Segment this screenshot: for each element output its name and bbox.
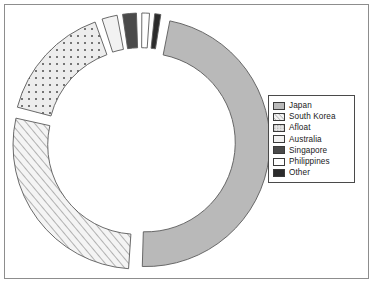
donut-slice-singapore[interactable]: [123, 13, 138, 49]
donut-slices: [13, 13, 270, 269]
legend-item-australia[interactable]: Australia: [273, 134, 350, 145]
dotted-swatch-icon: [273, 124, 285, 132]
legend-item-label: Afloat: [289, 123, 311, 132]
donut-slice-other[interactable]: [151, 14, 161, 49]
legend-item-label: Australia: [289, 135, 322, 144]
legend-item-singapore[interactable]: Singapore: [273, 145, 350, 156]
donut-slice-philippines[interactable]: [142, 13, 150, 48]
white-swatch-icon: [273, 158, 285, 166]
legend-item-south-korea[interactable]: South Korea: [273, 111, 350, 122]
legend-item-label: Japan: [289, 101, 312, 110]
diagonal-hatch-swatch-icon: [273, 113, 285, 121]
legend-item-label: Other: [289, 168, 310, 177]
donut-slice-south-korea[interactable]: [13, 118, 131, 269]
legend-item-other[interactable]: Other: [273, 167, 350, 178]
legend-item-label: Singapore: [289, 146, 327, 155]
legend-item-japan[interactable]: Japan: [273, 100, 350, 111]
donut-slice-japan[interactable]: [142, 21, 270, 267]
legend-item-label: Philippines: [289, 157, 330, 166]
light-gray-swatch-icon: [273, 135, 285, 143]
donut-slice-afloat[interactable]: [17, 22, 107, 116]
legend-item-afloat[interactable]: Afloat: [273, 122, 350, 133]
screenshot-root: Japan South Korea Afloat Australia Singa…: [0, 0, 374, 284]
black-swatch-icon: [273, 169, 285, 177]
solid-gray-swatch-icon: [273, 102, 285, 110]
legend: Japan South Korea Afloat Australia Singa…: [268, 95, 355, 183]
dark-gray-swatch-icon: [273, 146, 285, 154]
ring-chart: Japan South Korea Afloat Australia Singa…: [0, 0, 374, 284]
donut-slice-australia[interactable]: [102, 15, 123, 52]
donut-chart-svg: [6, 6, 276, 278]
legend-item-label: South Korea: [289, 112, 336, 121]
legend-item-philippines[interactable]: Philippines: [273, 156, 350, 167]
